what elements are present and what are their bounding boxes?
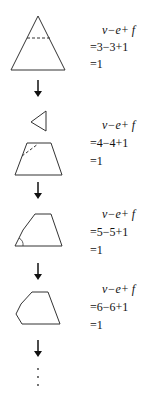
hexagon-shape: [16, 292, 60, 324]
euler-calculation: =3−3+1: [90, 40, 135, 54]
euler-result: =1: [90, 57, 135, 71]
pentagon-shape: [15, 214, 62, 246]
euler-calculation: =6−6+1: [90, 300, 135, 314]
euler-result: =1: [90, 154, 135, 168]
euler-expression: v−e+ f: [90, 118, 135, 132]
down-arrow-icon: [34, 340, 42, 357]
vertical-ellipsis-icon: [37, 368, 39, 386]
trapezoid-shape: [15, 143, 62, 175]
euler-calculation: =4−4+1: [90, 136, 135, 150]
triangle-shape: [11, 16, 65, 70]
euler-equation-step-3: v−e+ f =5−5+1 =1: [90, 207, 135, 257]
euler-equation-step-4: v−e+ f =6−6+1 =1: [90, 282, 135, 332]
euler-result: =1: [90, 318, 135, 332]
down-arrow-icon: [34, 80, 42, 97]
down-arrow-icon: [34, 263, 42, 280]
euler-expression: v−e+ f: [90, 207, 135, 221]
euler-equation-step-1: v−e+ f =3−3+1 =1: [90, 23, 135, 71]
removed-triangle-shape: [31, 111, 46, 131]
euler-expression: v−e+ f: [90, 23, 135, 37]
down-arrow-icon: [34, 182, 42, 199]
euler-result: =1: [90, 243, 135, 257]
corner-angle-mark: [19, 238, 23, 246]
euler-equation-step-2: v−e+ f =4−4+1 =1: [90, 118, 135, 168]
euler-expression: v−e+ f: [90, 282, 135, 296]
euler-calculation: =5−5+1: [90, 225, 135, 239]
